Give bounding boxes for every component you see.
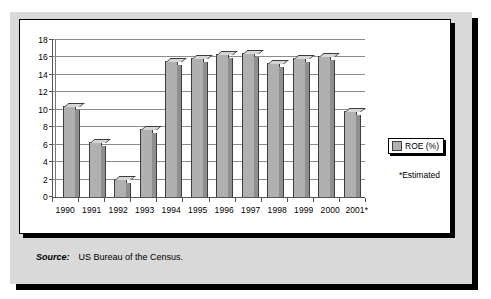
bar-slot — [312, 40, 338, 197]
x-axis-tick-mark — [104, 198, 105, 202]
bar — [267, 63, 280, 197]
bar-slot — [185, 40, 211, 197]
bar-side-face — [75, 110, 80, 197]
bar — [216, 54, 229, 197]
x-axis-tick-label: 1994 — [158, 205, 185, 215]
bar — [242, 53, 255, 197]
y-axis-tick-mark — [49, 39, 53, 40]
bar-side-face — [203, 62, 208, 197]
y-axis-tick-label: 18 — [38, 35, 48, 45]
bar — [63, 106, 76, 197]
y-axis-tick-mark — [49, 161, 53, 162]
y-axis-tick-label: 6 — [43, 140, 48, 150]
bar — [165, 61, 178, 197]
bar-slot — [159, 40, 185, 197]
bar-side-face — [101, 146, 106, 197]
y-axis-tick-mark — [49, 196, 53, 197]
x-axis-tick-label: 1990 — [52, 205, 79, 215]
y-axis-tick-mark — [49, 91, 53, 92]
x-axis-tick-label: 2001* — [344, 205, 371, 215]
bar-slot — [210, 40, 236, 197]
x-axis-tick-mark — [261, 198, 262, 202]
x-axis-tick-label: 1995 — [185, 205, 212, 215]
bar-slot — [287, 40, 313, 197]
bar — [191, 58, 204, 197]
source-label: Source: — [36, 252, 70, 262]
bar-side-face — [356, 115, 361, 197]
y-axis-tick-mark — [49, 109, 53, 110]
bar-top-face — [345, 108, 366, 112]
y-axis-tick-label: 16 — [38, 52, 48, 62]
x-axis-tick-mark — [130, 198, 131, 202]
bar-side-face — [177, 65, 182, 197]
y-axis-tick-mark — [49, 179, 53, 180]
chart-card: 024681012141618 199019911992199319941995… — [19, 19, 451, 234]
source-text: US Bureau of the Census. — [79, 252, 184, 262]
bar-side-face — [228, 58, 233, 197]
x-axis-tick-mark — [235, 198, 236, 202]
x-axis-tick-label: 1997 — [238, 205, 265, 215]
y-axis-tick-mark — [49, 56, 53, 57]
bar-slot — [236, 40, 262, 197]
legend-swatch-icon — [392, 141, 402, 151]
x-axis-tick-label: 1998 — [264, 205, 291, 215]
bar-side-face — [254, 57, 259, 197]
bar — [293, 58, 306, 197]
bar — [114, 179, 127, 197]
figure-panel: 024681012141618 199019911992199319941995… — [10, 12, 472, 284]
x-axis-tick-mark — [182, 198, 183, 202]
bar-slot — [108, 40, 134, 197]
bar-side-face — [305, 62, 310, 197]
bar-side-face — [126, 183, 131, 197]
bar-slot — [134, 40, 160, 197]
plot-area: 024681012141618 — [52, 40, 365, 198]
bar-slot — [261, 40, 287, 197]
x-axis-tick-mark — [313, 198, 314, 202]
bar-side-face — [152, 133, 157, 197]
x-axis-tick-label: 2000 — [317, 205, 344, 215]
y-axis-tick-mark — [49, 144, 53, 145]
x-axis-tick-label: 1999 — [291, 205, 318, 215]
y-axis-tick-label: 14 — [38, 70, 48, 80]
bar — [344, 111, 357, 197]
bar — [140, 129, 153, 197]
x-axis-tick-mark — [287, 198, 288, 202]
bar-side-face — [330, 60, 335, 197]
x-axis-tick-mark — [365, 198, 366, 202]
bar-slot — [338, 40, 364, 197]
x-axis-labels-group: 1990199119921993199419951996199719981999… — [52, 205, 370, 215]
y-axis-tick-label: 12 — [38, 87, 48, 97]
source-row: Source: US Bureau of the Census. — [36, 252, 183, 262]
y-axis-tick-label: 10 — [38, 105, 48, 115]
y-axis-tick-label: 0 — [43, 192, 48, 202]
x-axis-tick-mark — [339, 198, 340, 202]
y-axis-tick-mark — [49, 126, 53, 127]
legend-entry-label: ROE (%) — [405, 141, 439, 151]
chart-legend: ROE (%) — [388, 138, 444, 154]
chart-plot-wrapper: 024681012141618 199019911992199319941995… — [20, 20, 450, 233]
bar — [318, 56, 331, 197]
bar-side-face — [279, 67, 284, 197]
bar — [89, 142, 102, 197]
x-axis-tick-label: 1993 — [132, 205, 159, 215]
x-axis-tick-mark — [156, 198, 157, 202]
x-axis-tick-label: 1991 — [79, 205, 106, 215]
x-axis-tick-label: 1992 — [105, 205, 132, 215]
x-axis-tick-mark — [209, 198, 210, 202]
bar-series-roe — [57, 40, 363, 197]
x-axis-tick-mark — [52, 198, 53, 202]
estimated-footnote: *Estimated — [399, 170, 440, 180]
y-axis-tick-label: 4 — [43, 157, 48, 167]
bar-slot — [83, 40, 109, 197]
y-axis-tick-label: 8 — [43, 122, 48, 132]
y-axis-tick-label: 2 — [43, 175, 48, 185]
x-axis-tick-mark — [78, 198, 79, 202]
bar-slot — [57, 40, 83, 197]
x-axis-tick-label: 1996 — [211, 205, 238, 215]
y-axis-tick-mark — [49, 74, 53, 75]
